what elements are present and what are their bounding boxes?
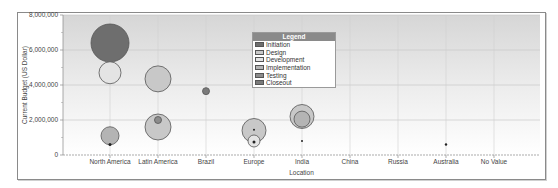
bubble-implementation <box>101 127 119 145</box>
legend-swatch <box>255 65 264 70</box>
bubble-closeout <box>203 88 210 95</box>
bubble-development <box>99 62 121 84</box>
bubble-design <box>145 66 171 92</box>
legend-item-design: Design <box>253 49 335 57</box>
bubble-initiation <box>301 140 303 142</box>
bubble-testing <box>155 117 162 124</box>
bubble-initiation <box>91 24 129 62</box>
legend-title: Legend <box>253 33 335 41</box>
x-axis-title: Location <box>289 169 314 176</box>
legend-swatch <box>255 80 264 85</box>
legend-swatch <box>255 42 264 47</box>
x-tick-label: No Value <box>481 158 508 165</box>
legend-label: Implementation <box>266 64 310 71</box>
x-tick-label: Australia <box>433 158 459 165</box>
legend-item-testing: Testing <box>253 71 335 79</box>
bubble-implementation <box>294 111 310 127</box>
bubble-initiation <box>445 143 447 145</box>
legend-swatch <box>255 73 264 78</box>
legend-swatch <box>255 50 264 55</box>
legend-label: Development <box>266 56 304 63</box>
y-tick-label: 0 <box>54 151 58 158</box>
legend-item-initiation: Initiation <box>253 41 335 49</box>
y-axis-title: Current Budget (US Dollar) <box>21 46 29 124</box>
legend-label: Testing <box>266 72 287 79</box>
x-tick-label: Latin America <box>138 158 178 165</box>
legend: Legend InitiationDesignDevelopmentImplem… <box>252 32 336 88</box>
x-tick-label: India <box>295 158 309 165</box>
legend-item-development: Development <box>253 56 335 64</box>
x-tick-label: Europe <box>244 158 265 166</box>
y-tick-label: 8,000,000 <box>29 11 58 18</box>
legend-label: Initiation <box>266 41 290 48</box>
legend-swatch <box>255 57 264 62</box>
legend-item-implementation: Implementation <box>253 64 335 72</box>
y-tick-label: 4,000,000 <box>29 81 58 88</box>
x-tick-label: Russia <box>388 158 408 165</box>
x-tick-label: China <box>342 158 359 165</box>
legend-label: Closeout <box>266 79 292 86</box>
legend-label: Design <box>266 49 286 56</box>
x-tick-label: Brazil <box>198 158 215 165</box>
bubble-initiation <box>253 140 256 143</box>
y-tick-label: 2,000,000 <box>29 116 58 123</box>
y-tick-label: 6,000,000 <box>29 46 58 53</box>
legend-item-closeout: Closeout <box>253 79 335 87</box>
bubble-testing <box>109 143 112 146</box>
bubble-initiation <box>253 129 255 131</box>
bubble-chart: 02,000,0004,000,0006,000,0008,000,000Nor… <box>0 0 558 188</box>
x-tick-label: North America <box>89 158 131 165</box>
